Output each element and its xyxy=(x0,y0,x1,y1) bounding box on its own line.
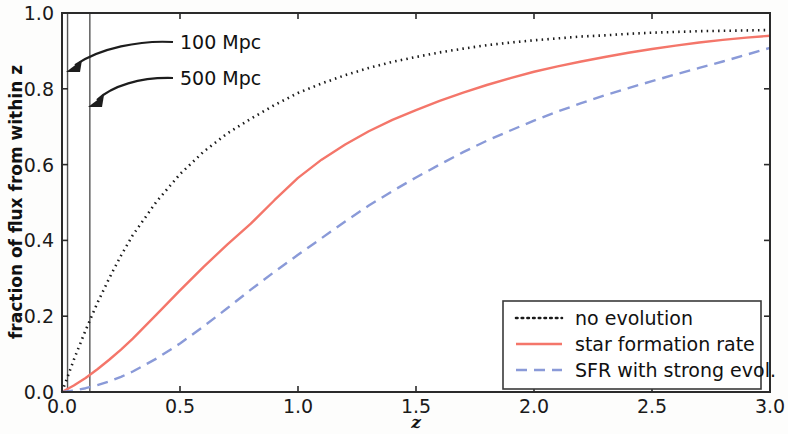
x-tick-label-1: 0.5 xyxy=(165,395,195,417)
legend-label-0: no evolution xyxy=(575,307,693,329)
annotation-label-100mpc: 100 Mpc xyxy=(180,31,261,53)
x-tick-label-2: 1.0 xyxy=(283,395,313,417)
y-tick-label-2: 0.4 xyxy=(24,229,54,251)
y-tick-label-4: 0.8 xyxy=(24,78,54,100)
y-tick-label-0: 0.0 xyxy=(24,381,54,403)
y-tick-label-3: 0.6 xyxy=(24,154,54,176)
x-tick-label-5: 2.5 xyxy=(637,395,667,417)
legend-label-1: star formation rate xyxy=(575,333,755,355)
annotation-label-500mpc: 500 Mpc xyxy=(180,67,261,89)
x-axis-title: z xyxy=(410,412,421,432)
y-tick-label-1: 0.2 xyxy=(24,305,54,327)
legend-label-2: SFR with strong evol. xyxy=(575,359,776,381)
legend: no evolutionstar formation rateSFR with … xyxy=(503,301,776,389)
y-tick-label-5: 1.0 xyxy=(24,2,54,24)
x-tick-label-4: 2.0 xyxy=(519,395,549,417)
y-axis-title: fraction of flux from within z xyxy=(6,65,26,339)
x-tick-label-6: 3.0 xyxy=(755,395,785,417)
figure-root: 0.00.51.01.52.02.53.0 0.00.20.40.60.81.0… xyxy=(0,0,788,434)
chart-svg: 0.00.51.01.52.02.53.0 0.00.20.40.60.81.0… xyxy=(0,0,788,434)
